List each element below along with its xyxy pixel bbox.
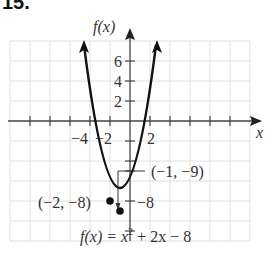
point-neg2-neg8 <box>106 197 114 205</box>
y-tick-neg8: −8 <box>137 194 154 211</box>
point-label: (−2, −8) <box>38 194 91 212</box>
y-axis-label: f(x) <box>93 18 115 36</box>
y-tick-6: 6 <box>114 53 122 70</box>
vertex-label: (−1, −9) <box>151 163 204 181</box>
x-tick-neg2: −2 <box>95 130 112 147</box>
graph: f(x) x 6 4 2 −4 −2 2 −8 (−1, −9) (−2, −8… <box>0 0 280 259</box>
vertex-point <box>116 207 124 215</box>
y-tick-4: 4 <box>114 73 122 90</box>
right-arrow-icon <box>152 40 162 53</box>
x-axis-label: x <box>255 124 263 141</box>
y-tick-2: 2 <box>114 93 122 110</box>
x-tick-2: 2 <box>147 130 155 147</box>
function-equation: f(x) = x2 + 2x − 8 <box>80 226 191 246</box>
x-tick-neg4: −4 <box>71 130 88 147</box>
